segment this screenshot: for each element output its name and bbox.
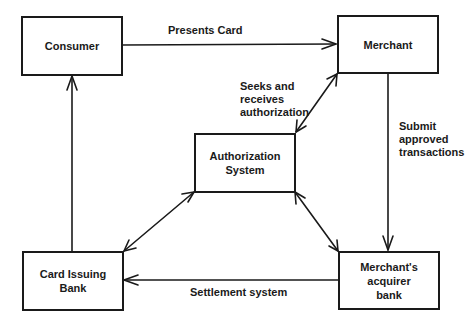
edge-label-seeks-authorization: Seeks and receives authorization [240, 80, 309, 119]
edge-label-presents-card: Presents Card [168, 24, 243, 37]
node-card-issuing-bank: Card Issuing Bank [22, 251, 124, 311]
node-label: Authorization System [210, 149, 281, 177]
edge-submit-transactions [383, 74, 393, 250]
edge-label-settlement-system: Settlement system [190, 286, 287, 299]
node-label: Consumer [45, 39, 99, 53]
node-authorization-system: Authorization System [194, 133, 296, 193]
edge-auth-acquirer [295, 192, 338, 251]
edge-presents-card [122, 39, 336, 49]
edge-settlement-system [124, 275, 338, 285]
node-consumer: Consumer [21, 16, 123, 76]
edge-issuer-to-consumer [67, 76, 77, 251]
node-label: Card Issuing Bank [40, 267, 107, 295]
node-label: Merchant [364, 38, 413, 52]
node-merchant-acquirer-bank: Merchant's acquirer bank [338, 251, 440, 310]
edge-label-submit-transactions: Submit approved transactions [399, 120, 464, 159]
edge-auth-issuer [124, 192, 194, 251]
node-merchant: Merchant [337, 15, 439, 74]
node-label: Merchant's acquirer bank [360, 260, 418, 302]
